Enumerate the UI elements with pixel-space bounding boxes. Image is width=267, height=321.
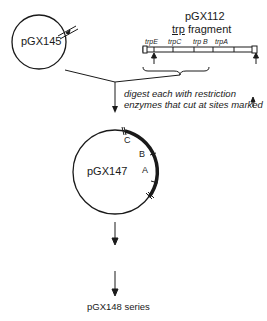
insert-label-a: A: [142, 166, 148, 175]
fragment-title: pGX112: [185, 11, 225, 22]
plasmid-label-pgx147: pGX147: [87, 166, 127, 177]
gene-trpA: trpA: [215, 38, 228, 45]
cut-site-arrow-icon: [152, 53, 259, 64]
insert-label-b: B: [139, 150, 145, 159]
trp-underlined: trp: [172, 23, 185, 35]
final-series-label: pGX148 series: [87, 302, 150, 312]
gene-trpC: trpC: [168, 38, 181, 45]
fragment-bracket: [143, 67, 209, 75]
fragment-word: fragment: [185, 23, 231, 35]
cloning-diagram: [0, 0, 267, 321]
fragment-subtitle: trp fragment: [172, 24, 231, 35]
arrow-down-icon: [112, 106, 118, 113]
gene-trpE: trpE: [145, 38, 158, 45]
instruction-line2: enzymes that cut at sites marked: [124, 100, 263, 110]
insert-label-c: C: [124, 136, 131, 145]
arrow-down-icon: [112, 238, 118, 245]
instruction-line1: digest each with restriction: [124, 89, 236, 99]
plasmid-label-pgx145: pGX145: [21, 36, 61, 47]
trp-fragment-bar: [143, 46, 257, 53]
arrow-down-icon: [112, 289, 118, 296]
gene-trpB: trp B: [193, 38, 208, 45]
